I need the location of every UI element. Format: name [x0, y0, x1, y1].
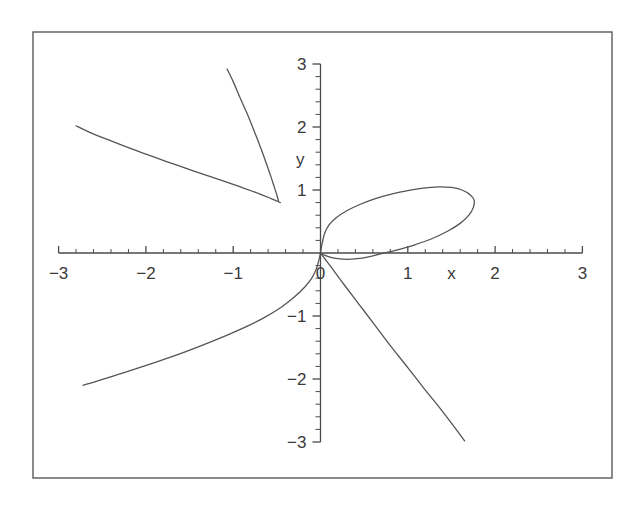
curve-upper-left-cusp-upper-arm	[227, 69, 279, 201]
x-tick-label--3: −3	[49, 264, 68, 283]
x-tick-label--1: −1	[224, 264, 243, 283]
y-tick-label--3: −3	[287, 433, 306, 452]
x-tick-label--2: −2	[136, 264, 155, 283]
x-tick-label-0: 0	[316, 264, 325, 283]
x-axis-label: x	[447, 264, 456, 283]
curve-loop-branch	[321, 187, 475, 259]
y-tick-label-3: 3	[297, 55, 306, 74]
x-tick-label-2: 2	[490, 264, 499, 283]
plot-canvas: −3−2−10123−3−2−1123 xy	[0, 0, 639, 506]
curve-upper-left-cusp-lower-arm	[76, 126, 280, 203]
y-tick-label--2: −2	[287, 370, 306, 389]
y-axis-label: y	[296, 150, 305, 169]
y-tick-label-1: 1	[297, 181, 306, 200]
curve-lower-right-branch	[321, 253, 465, 441]
x-tick-label-3: 3	[578, 264, 587, 283]
x-tick-label-1: 1	[403, 264, 412, 283]
curves-group	[76, 69, 474, 441]
y-tick-label-2: 2	[297, 118, 306, 137]
y-tick-label--1: −1	[287, 307, 306, 326]
curve-lower-left-branch	[83, 253, 320, 385]
plot-figure: −3−2−10123−3−2−1123 xy	[0, 0, 639, 506]
